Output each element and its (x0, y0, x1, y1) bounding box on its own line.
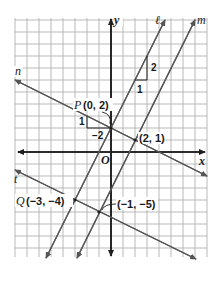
slope-run-label-n: −2 (92, 130, 104, 141)
axes (18, 19, 205, 256)
line-m-label: m (197, 13, 206, 27)
point-Q-coords: (−3, −4) (26, 195, 65, 207)
origin-label: O (101, 153, 110, 167)
slope-run-label-l: 1 (137, 84, 143, 95)
leader-neg1-neg5 (102, 204, 116, 210)
line-n-label: n (15, 64, 21, 78)
line-l-label: ℓ (155, 13, 160, 27)
point-P-name: P (73, 98, 82, 112)
point-Q-name: Q (16, 194, 25, 208)
point-2-1-coords: (2, 1) (139, 132, 165, 144)
x-axis-label: x (198, 154, 205, 168)
point-P-coords: (0, 2) (83, 99, 109, 111)
point-Q (73, 198, 76, 201)
line-t-label: t (14, 172, 18, 186)
point-P (109, 126, 112, 129)
slope-rise-label-n: 1 (79, 116, 85, 127)
point-neg1-neg5-coords: (−1, −5) (117, 198, 156, 210)
label-Q: Q (−3, −4) (15, 194, 73, 208)
slope-rise-label-l: 2 (151, 62, 157, 73)
point-neg1-neg5 (97, 210, 100, 213)
coordinate-plane: 1 2 1 −2 P (0, 2) (2, 1) Q (−3, −4) (−1,… (0, 0, 215, 282)
y-axis-label: y (112, 13, 120, 27)
label-2-1: (2, 1) (138, 132, 165, 144)
line-t-tail (15, 170, 196, 259)
point-2-1 (133, 138, 136, 141)
leader-P (102, 112, 110, 124)
